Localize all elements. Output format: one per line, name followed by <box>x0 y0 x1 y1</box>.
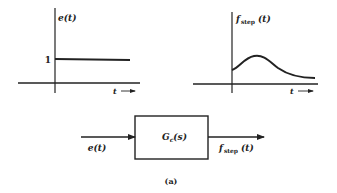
input-step-level-line <box>55 59 130 60</box>
diagram-canvas: e(t) 1 t fstep(t) t e(t) Gc(s) fstep(t) … <box>0 0 337 193</box>
block-input-label: e(t) <box>88 143 106 153</box>
block-output-label: fstep(t) <box>218 143 254 155</box>
block-diagram: e(t) Gc(s) fstep(t) <box>81 116 264 159</box>
output-response-curve <box>232 56 315 78</box>
output-response-plot: fstep(t) t <box>193 12 318 96</box>
input-plot-y-label: e(t) <box>58 13 76 23</box>
block-transfer-function-label: Gc(s) <box>162 132 187 143</box>
input-plot-level-tick: 1 <box>45 55 51 65</box>
figure-caption: (a) <box>165 176 178 186</box>
output-plot-x-label: t <box>290 86 294 96</box>
input-plot-x-label: t <box>113 86 117 96</box>
output-plot-y-label: fstep(t) <box>235 14 271 26</box>
input-step-plot: e(t) 1 t <box>18 8 140 96</box>
